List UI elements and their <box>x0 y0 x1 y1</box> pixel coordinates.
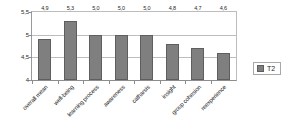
bar-slot: 4,6 <box>211 12 237 80</box>
category-label-slot: learning process <box>83 84 109 134</box>
bar-slot: 4,7 <box>185 12 211 80</box>
bar-value-label: 4,7 <box>194 5 201 11</box>
bar-value-label: 5,0 <box>92 5 99 11</box>
legend-label-t2: T2 <box>267 65 275 72</box>
bar-value-label: 5,0 <box>118 5 125 11</box>
bar-value-label: 4,9 <box>41 5 48 11</box>
category-label-slot: awareness <box>109 84 135 134</box>
bar: 5,3 <box>64 21 77 80</box>
category-label: insight <box>161 84 177 100</box>
category-label-slot: overall mean <box>32 84 58 134</box>
y-axis-tick-label: 5,5 <box>21 9 29 15</box>
bar-value-label: 5,3 <box>67 5 74 11</box>
category-label: overall mean <box>22 84 50 112</box>
bar-slot: 5,0 <box>134 12 160 80</box>
bar-slot: 4,9 <box>32 12 58 80</box>
bar-value-label: 4,8 <box>169 5 176 11</box>
y-axis-tick-label: 4 <box>26 77 29 83</box>
bar: 5,0 <box>115 35 128 80</box>
bar: 4,8 <box>166 44 179 80</box>
bar-series-t2: 4,95,35,05,05,04,84,74,6 <box>32 12 236 80</box>
bar-value-label: 5,0 <box>143 5 150 11</box>
bar-slot: 5,0 <box>83 12 109 80</box>
legend-swatch-t2 <box>257 65 264 72</box>
chart-legend: T2 <box>253 62 281 75</box>
bar: 4,7 <box>191 48 204 80</box>
bar-slot: 5,3 <box>58 12 84 80</box>
bar-chart: 5,554,54 4,95,35,05,05,04,84,74,6 overal… <box>0 0 299 136</box>
plot-wrapper: 5,554,54 4,95,35,05,05,04,84,74,6 overal… <box>0 0 246 136</box>
y-axis-tick-label: 4,5 <box>21 54 29 60</box>
bar: 5,0 <box>89 35 102 80</box>
bar-slot: 4,8 <box>160 12 186 80</box>
category-label: catharsis <box>131 84 152 105</box>
x-axis-category-labels: overall meanwell-beinglearning processaw… <box>32 84 236 134</box>
category-label-slot: reexperience <box>211 84 237 134</box>
bar: 4,9 <box>38 39 51 80</box>
bar: 5,0 <box>140 35 153 80</box>
y-axis-tick-label: 5 <box>26 32 29 38</box>
bar-slot: 5,0 <box>109 12 135 80</box>
bar-value-label: 4,6 <box>220 5 227 11</box>
category-label-slot: catharsis <box>134 84 160 134</box>
bar: 4,6 <box>217 53 230 80</box>
